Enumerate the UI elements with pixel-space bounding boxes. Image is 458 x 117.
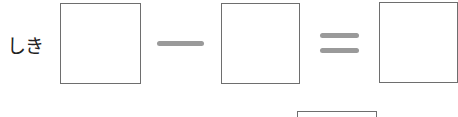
answer-box-1[interactable] xyxy=(60,3,141,84)
equals-bar-top xyxy=(320,33,359,38)
shiki-label: しき xyxy=(7,31,43,58)
answer-box-4[interactable] xyxy=(297,111,377,117)
answer-box-3[interactable] xyxy=(379,2,458,83)
equals-bar-bottom xyxy=(320,48,359,53)
minus-sign-icon xyxy=(157,41,204,46)
answer-box-2[interactable] xyxy=(221,3,300,84)
